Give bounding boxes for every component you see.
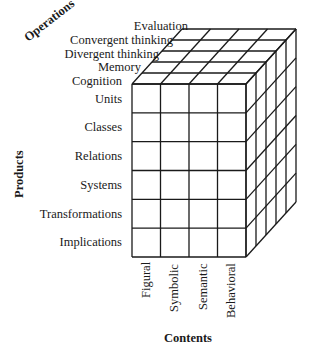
content-label-figural: Figural — [140, 262, 153, 298]
operation-label-memory: Memory — [98, 61, 141, 74]
operation-label-evaluation: Evaluation — [134, 20, 188, 33]
operation-label-convergent: Convergent thinking — [70, 34, 173, 47]
product-label-relations: Relations — [75, 150, 122, 163]
product-label-transformations: Transformations — [40, 208, 122, 221]
product-label-units: Units — [95, 93, 122, 106]
content-label-semantic: Semantic — [197, 263, 210, 310]
operation-label-cognition: Cognition — [72, 75, 122, 88]
product-label-classes: Classes — [85, 121, 123, 134]
products-axis-label: Products — [13, 150, 26, 198]
content-label-behavioral: Behavioral — [225, 263, 238, 318]
contents-axis-label: Contents — [164, 332, 212, 345]
product-label-systems: Systems — [80, 179, 122, 192]
content-label-symbolic: Symbolic — [168, 264, 181, 312]
product-label-implications: Implications — [60, 236, 123, 249]
operation-label-divergent: Divergent thinking — [64, 48, 159, 61]
